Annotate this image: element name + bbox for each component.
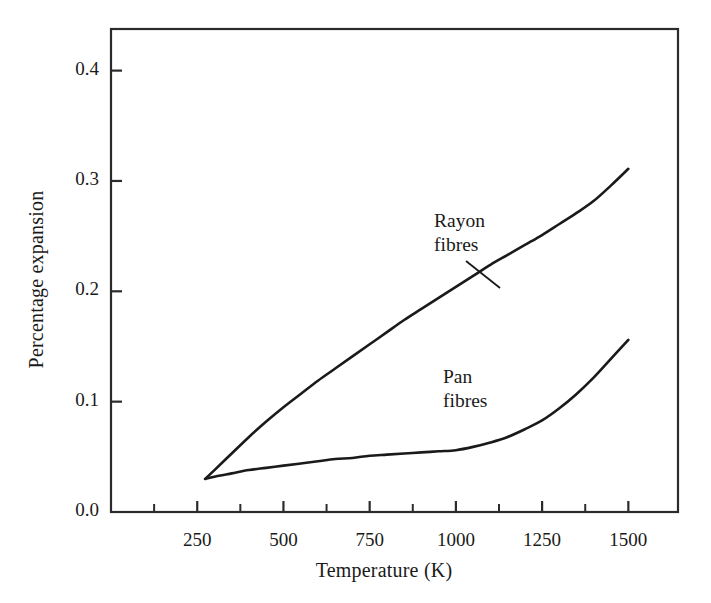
series-label-pan-fibres: Pan fibres — [443, 365, 487, 413]
x-tick-label: 500 — [243, 529, 323, 551]
y-tick-label: 0.1 — [39, 389, 99, 411]
series-label-pan-line1: Pan — [443, 365, 487, 389]
x-tick-label: 1250 — [502, 529, 582, 551]
series-label-pan-line2: fibres — [443, 389, 487, 413]
series-label-rayon-fibres: Rayon fibres — [434, 209, 485, 257]
x-tick-label: 250 — [157, 529, 237, 551]
series-label-rayon-line1: Rayon — [434, 209, 485, 233]
chart-figure: Percentage expansion Temperature (K) 0.0… — [0, 0, 711, 603]
x-tick-label: 1500 — [588, 529, 668, 551]
x-tick-label: 750 — [330, 529, 410, 551]
y-tick-label: 0.0 — [39, 499, 99, 521]
y-tick-label: 0.4 — [39, 58, 99, 80]
y-tick-label: 0.2 — [39, 278, 99, 300]
chart-canvas — [0, 0, 711, 603]
plot-frame — [111, 29, 678, 512]
series-label-rayon-line2: fibres — [434, 233, 485, 257]
x-tick-label: 1000 — [416, 529, 496, 551]
y-tick-label: 0.3 — [39, 168, 99, 190]
x-axis-title: Temperature (K) — [254, 559, 514, 582]
